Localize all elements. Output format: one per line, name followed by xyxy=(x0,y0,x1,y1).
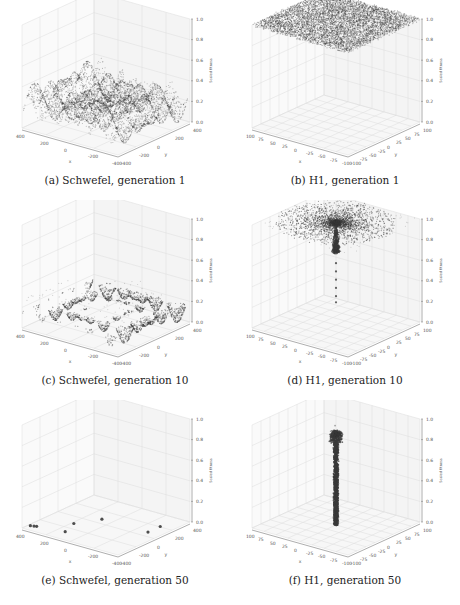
y-tick: 200 xyxy=(175,536,184,541)
x-tick: 25 xyxy=(282,344,288,349)
z-axis-label: Scaled fitness xyxy=(439,258,443,283)
panel-b: 1007550250-25-50-75-100-100-75-50-250255… xyxy=(230,0,460,200)
x-tick: 100 xyxy=(246,534,255,539)
y-tick: -50 xyxy=(369,353,376,358)
x-tick: 25 xyxy=(282,544,288,549)
z-tick: 0.6 xyxy=(426,258,433,263)
y-tick: 400 xyxy=(193,128,202,133)
y-tick: 25 xyxy=(396,140,402,145)
x-tick: 75 xyxy=(258,537,264,542)
z-axis-label: Scaled fitness xyxy=(209,58,213,83)
y-tick: 0 xyxy=(157,345,160,350)
x-axis-label: x xyxy=(69,559,72,564)
y-tick: -200 xyxy=(139,353,149,358)
z-tick: 1.0 xyxy=(426,217,433,222)
x-tick: -200 xyxy=(88,154,98,159)
x-tick: -50 xyxy=(318,354,325,359)
x-tick: 0 xyxy=(64,148,67,153)
x-tick: -75 xyxy=(330,558,337,563)
y-tick: 25 xyxy=(396,340,402,345)
plot-c: 4002000-200-400-400-20002004000.00.20.40… xyxy=(0,200,230,400)
y-tick: 400 xyxy=(193,528,202,533)
y-tick: -50 xyxy=(369,153,376,158)
z-axis-label: Scaled fitness xyxy=(209,458,213,483)
y-tick: 0 xyxy=(157,145,160,150)
z-axis-label: Scaled fitness xyxy=(439,58,443,83)
x-axis-label: x xyxy=(299,559,302,564)
panel-d: 1007550250-25-50-75-100-100-75-50-250255… xyxy=(230,200,460,400)
caption-c: (c) Schwefel, generation 10 xyxy=(0,374,230,386)
z-tick: 0.2 xyxy=(426,99,433,104)
y-tick: 200 xyxy=(175,136,184,141)
z-tick: 0.2 xyxy=(196,499,203,504)
z-tick: 0.2 xyxy=(196,99,203,104)
z-tick: 0.8 xyxy=(426,437,433,442)
x-tick: -50 xyxy=(318,554,325,559)
axes-box: 1007550250-25-50-75-100-100-75-50-250255… xyxy=(246,400,443,566)
z-tick: 0.8 xyxy=(196,437,203,442)
y-axis-label: y xyxy=(394,552,397,557)
z-tick: 0.8 xyxy=(426,37,433,42)
y-tick: 75 xyxy=(414,332,420,337)
y-tick: 100 xyxy=(423,528,432,533)
x-tick: 50 xyxy=(270,141,276,146)
caption-f: (f) H1, generation 50 xyxy=(230,574,460,586)
z-tick: 0.2 xyxy=(426,499,433,504)
x-tick: 200 xyxy=(40,341,49,346)
z-tick: 0.0 xyxy=(426,520,433,525)
z-tick: 0.2 xyxy=(196,299,203,304)
z-tick: 0.4 xyxy=(426,278,433,283)
x-axis-label: x xyxy=(69,359,72,364)
y-tick: -400 xyxy=(121,361,131,366)
x-tick: 0 xyxy=(294,348,297,353)
caption-d: (d) H1, generation 10 xyxy=(230,374,460,386)
axes-box: 4002000-200-400-400-20002004000.00.20.40… xyxy=(16,400,213,566)
z-tick: 0.6 xyxy=(196,258,203,263)
y-tick: 0 xyxy=(387,345,390,350)
z-tick: 0.4 xyxy=(196,78,203,83)
y-tick: 25 xyxy=(396,540,402,545)
caption-b: (b) H1, generation 1 xyxy=(230,174,460,186)
y-tick: 0 xyxy=(157,545,160,550)
x-tick: 75 xyxy=(258,337,264,342)
z-tick: 1.0 xyxy=(196,17,203,22)
x-tick: 400 xyxy=(16,134,25,139)
x-tick: 200 xyxy=(40,141,49,146)
z-tick: 0.6 xyxy=(426,58,433,63)
caption-a: (a) Schwefel, generation 1 xyxy=(0,174,230,186)
axes-box: 4002000-200-400-400-20002004000.00.20.40… xyxy=(16,200,213,366)
z-tick: 0.0 xyxy=(426,320,433,325)
z-tick: 1.0 xyxy=(196,217,203,222)
x-tick: 50 xyxy=(270,541,276,546)
x-tick: -200 xyxy=(88,554,98,559)
x-tick: 100 xyxy=(246,334,255,339)
z-tick: 0.8 xyxy=(196,37,203,42)
y-axis-label: y xyxy=(164,152,167,157)
y-tick: 0 xyxy=(387,145,390,150)
z-tick: 1.0 xyxy=(426,417,433,422)
z-tick: 0.6 xyxy=(196,458,203,463)
z-tick: 1.0 xyxy=(426,17,433,22)
z-tick: 0.0 xyxy=(196,520,203,525)
y-tick: -25 xyxy=(378,149,385,154)
z-tick: 0.8 xyxy=(426,237,433,242)
x-tick: 0 xyxy=(64,348,67,353)
z-tick: 0.4 xyxy=(426,478,433,483)
x-tick: -25 xyxy=(306,151,313,156)
z-axis-label: Scaled fitness xyxy=(209,258,213,283)
x-axis-label: x xyxy=(299,159,302,164)
y-tick: -25 xyxy=(378,349,385,354)
x-tick: 100 xyxy=(246,134,255,139)
panel-e: 4002000-200-400-400-20002004000.00.20.40… xyxy=(0,400,230,600)
y-axis-label: y xyxy=(394,152,397,157)
z-tick: 0.6 xyxy=(426,458,433,463)
y-tick: 100 xyxy=(423,128,432,133)
x-axis-label: x xyxy=(69,159,72,164)
caption-e: (e) Schwefel, generation 50 xyxy=(0,574,230,586)
x-tick: 400 xyxy=(16,534,25,539)
panel-f: 1007550250-25-50-75-100-100-75-50-250255… xyxy=(230,400,460,600)
y-tick: 75 xyxy=(414,132,420,137)
z-tick: 0.0 xyxy=(196,120,203,125)
x-tick: -25 xyxy=(306,351,313,356)
y-tick: -50 xyxy=(369,553,376,558)
